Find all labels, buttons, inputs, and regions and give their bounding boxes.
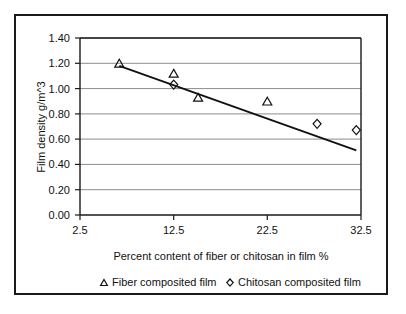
legend-label-fiber: Fiber composited film: [112, 276, 217, 288]
y-tickmarks: [75, 38, 80, 215]
data-point-triangle: [263, 97, 272, 105]
y-tick-label: 0.60: [49, 133, 70, 145]
data-point-diamond: [352, 126, 360, 135]
x-tick-label: 2.5: [72, 224, 87, 236]
x-tick-label: 22.5: [257, 224, 278, 236]
y-tick-label: 1.20: [49, 57, 70, 69]
y-tick-label: 1.00: [49, 83, 70, 95]
y-tick-label: 0.40: [49, 158, 70, 170]
y-tick-label: 0.20: [49, 184, 70, 196]
data-point-diamond: [313, 119, 321, 128]
chart-canvas: 1.40 1.20 1.00 0.80 0.60 0.40 0.20 0.00 …: [16, 16, 386, 293]
chart-figure: 1.40 1.20 1.00 0.80 0.60 0.40 0.20 0.00 …: [14, 14, 388, 295]
chart-legend: Fiber composited film Chitosan composite…: [101, 276, 361, 288]
y-tick-label: 0.00: [49, 209, 70, 221]
x-tick-label: 32.5: [350, 224, 371, 236]
x-tickmarks: [80, 215, 361, 220]
y-axis-title: Film density g/m^3: [35, 81, 47, 172]
x-tick-labels: 2.5 12.5 22.5 32.5: [72, 224, 371, 236]
y-tick-label: 0.80: [49, 108, 70, 120]
legend-label-chitosan: Chitosan composited film: [238, 276, 361, 288]
legend-triangle-icon: [101, 280, 108, 286]
legend-diamond-icon: [227, 279, 233, 286]
series-fiber-composited-film: [115, 59, 272, 105]
data-point-triangle: [169, 69, 178, 77]
gridlines: [80, 38, 361, 190]
x-tick-label: 12.5: [163, 224, 184, 236]
y-tick-label: 1.40: [49, 32, 70, 44]
x-axis-title: Percent content of fiber or chitosan in …: [113, 250, 328, 262]
trendline: [119, 66, 356, 151]
y-tick-labels: 1.40 1.20 1.00 0.80 0.60 0.40 0.20 0.00: [49, 32, 70, 221]
